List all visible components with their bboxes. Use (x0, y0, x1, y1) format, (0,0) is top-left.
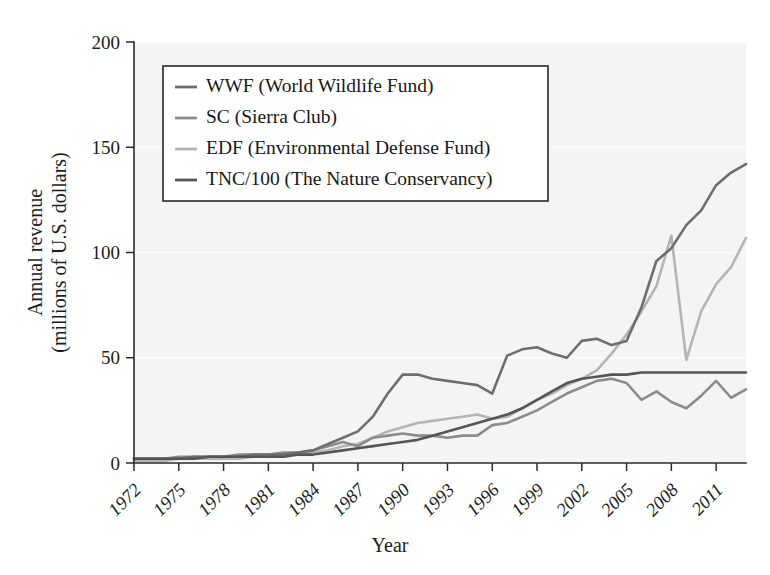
x-tick-label-1993: 1993 (418, 480, 458, 520)
legend-label-1: SC (Sierra Club) (206, 106, 337, 128)
x-tick-label-1972: 1972 (105, 480, 145, 520)
revenue-line-chart: 050100150200 197219751978198119841987199… (0, 0, 770, 575)
x-tick-label-1987: 1987 (328, 479, 369, 520)
legend-item-2[interactable]: EDF (Environmental Defense Fund) (175, 137, 490, 159)
x-tick-label-2005: 2005 (597, 480, 637, 520)
chart-canvas: 050100150200 197219751978198119841987199… (0, 0, 770, 575)
x-tick-label-1984: 1984 (284, 480, 324, 520)
legend-label-3: TNC/100 (The Nature Conservancy) (206, 168, 492, 190)
x-tick-label-1999: 1999 (508, 480, 548, 520)
x-tick-label-2002: 2002 (552, 480, 592, 520)
y-tick-label-150: 150 (92, 137, 121, 158)
y-tick-label-50: 50 (101, 347, 120, 368)
y-tick-label-0: 0 (111, 453, 121, 474)
x-tick-label-2008: 2008 (642, 479, 683, 520)
y-tick-label-200: 200 (92, 32, 121, 53)
y-axis-title-group: Annual revenue (millions of U.S. dollars… (24, 152, 71, 353)
y-axis-title-line1: Annual revenue (24, 189, 46, 316)
x-tick-label-2011: 2011 (688, 480, 727, 519)
legend-item-0[interactable]: WWF (World Wildlife Fund) (175, 75, 433, 97)
y-tick-label-100: 100 (92, 242, 121, 263)
x-axis-title: Year (372, 534, 409, 556)
legend: WWF (World Wildlife Fund)SC (Sierra Club… (163, 66, 548, 201)
x-tick-label-1981: 1981 (239, 480, 279, 520)
legend-label-0: WWF (World Wildlife Fund) (206, 75, 433, 97)
legend-label-2: EDF (Environmental Defense Fund) (206, 137, 490, 159)
x-tick-label-1975: 1975 (149, 480, 189, 520)
x-tick-label-1978: 1978 (194, 479, 235, 520)
y-axis-title-line2: (millions of U.S. dollars) (48, 152, 71, 353)
x-tick-label-1990: 1990 (373, 479, 414, 520)
legend-item-3[interactable]: TNC/100 (The Nature Conservancy) (175, 168, 492, 190)
x-tick-label-1996: 1996 (463, 479, 504, 520)
y-axis-ticks-group: 050100150200 (92, 32, 135, 474)
x-axis-ticks-group: 1972197519781981198419871990199319961999… (105, 463, 727, 520)
